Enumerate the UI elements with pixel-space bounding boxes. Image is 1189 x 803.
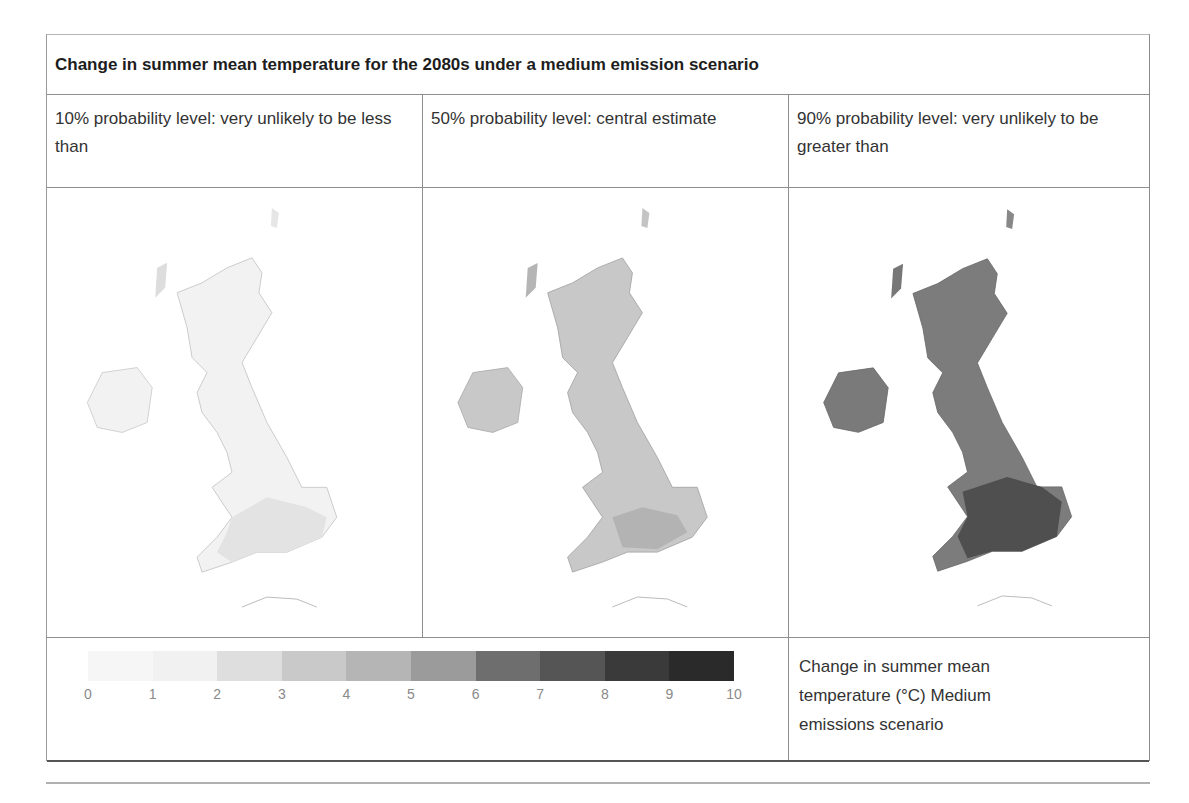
map-panel-10: [47, 188, 422, 637]
uk-map-50-icon: [423, 188, 788, 637]
colorbar-segment: [88, 651, 153, 681]
tick-label: 7: [536, 686, 544, 702]
map-panel-50: [422, 188, 788, 637]
colorbar-segment: [669, 651, 734, 681]
colorbar-segment: [540, 651, 605, 681]
colorbar: [88, 651, 734, 681]
colorbar-segment: [605, 651, 670, 681]
colorbar-cell: 0 1 2 3 4 5 6 7 8 9 10: [47, 638, 788, 760]
tick-label: 1: [149, 686, 157, 702]
colorbar-segment: [153, 651, 218, 681]
table-title-row: Change in summer mean temperature for th…: [47, 35, 1149, 95]
tick-label: 6: [472, 686, 480, 702]
column-header-10: 10% probability level: very unlikely to …: [47, 95, 422, 187]
climate-table: Change in summer mean temperature for th…: [46, 34, 1150, 761]
uk-map-90-icon: [789, 188, 1149, 637]
table-title: Change in summer mean temperature for th…: [55, 55, 759, 75]
column-header-90: 90% probability level: very unlikely to …: [788, 95, 1149, 187]
tick-label: 0: [84, 686, 92, 702]
colorbar-segment: [411, 651, 476, 681]
tick-label: 2: [213, 686, 221, 702]
page-separator-line: [46, 782, 1150, 784]
legend-caption-cell: Change in summer mean temperature (°C) M…: [788, 638, 1149, 760]
legend-row: 0 1 2 3 4 5 6 7 8 9 10 Change in summer …: [47, 638, 1149, 762]
tick-label: 9: [665, 686, 673, 702]
colorbar-ticks: 0 1 2 3 4 5 6 7 8 9 10: [88, 686, 734, 706]
tick-label: 3: [278, 686, 286, 702]
tick-label: 10: [726, 686, 742, 702]
map-panel-90: [788, 188, 1149, 637]
colorbar-segment: [282, 651, 347, 681]
column-headers-row: 10% probability level: very unlikely to …: [47, 95, 1149, 188]
legend-caption: Change in summer mean temperature (°C) M…: [799, 652, 1139, 739]
colorbar-segment: [476, 651, 541, 681]
tick-label: 4: [342, 686, 350, 702]
colorbar-segment: [346, 651, 411, 681]
tick-label: 8: [601, 686, 609, 702]
column-header-50: 50% probability level: central estimate: [422, 95, 788, 187]
uk-map-10-icon: [47, 188, 422, 637]
maps-row: [47, 188, 1149, 638]
colorbar-segment: [217, 651, 282, 681]
tick-label: 5: [407, 686, 415, 702]
